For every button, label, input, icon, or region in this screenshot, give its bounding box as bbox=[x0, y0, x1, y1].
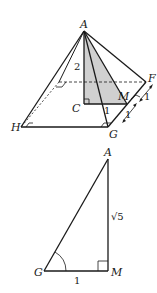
label-m-bottom: M bbox=[110, 266, 123, 279]
right-triangle-figure: A G M √5 1 bbox=[34, 146, 124, 286]
label-sqrt5: √5 bbox=[111, 211, 124, 222]
hidden-edge-left bbox=[21, 82, 59, 127]
label-gm-1: 1 bbox=[125, 109, 131, 120]
right-angle-mark-m bbox=[131, 95, 140, 99]
angle-arc-g bbox=[55, 252, 66, 271]
arrow-head-m2 bbox=[133, 103, 137, 107]
label-height-2: 2 bbox=[74, 61, 80, 72]
right-angle-mark-m-bottom bbox=[98, 261, 108, 271]
label-g-top: G bbox=[109, 128, 118, 141]
label-gm-bottom: 1 bbox=[74, 275, 80, 286]
label-h: H bbox=[10, 121, 21, 134]
edge-a-back-left bbox=[59, 31, 84, 82]
label-m-top: M bbox=[117, 90, 130, 103]
label-mf-1: 1 bbox=[144, 91, 150, 102]
label-c: C bbox=[72, 102, 81, 115]
label-cm-1: 1 bbox=[104, 105, 110, 116]
label-a-top: A bbox=[79, 18, 88, 31]
diagram-canvas: A C M F G H 2 1 1 1 A G M √5 1 bbox=[0, 0, 157, 293]
side-ga bbox=[44, 159, 108, 271]
label-a-bottom: A bbox=[103, 146, 112, 159]
pyramid-figure: A C M F G H 2 1 1 1 bbox=[10, 18, 156, 141]
right-angle-mark-back bbox=[56, 82, 66, 87]
label-f: F bbox=[147, 72, 156, 85]
label-g-bottom: G bbox=[34, 266, 43, 279]
arrow-head-m1 bbox=[139, 98, 143, 102]
